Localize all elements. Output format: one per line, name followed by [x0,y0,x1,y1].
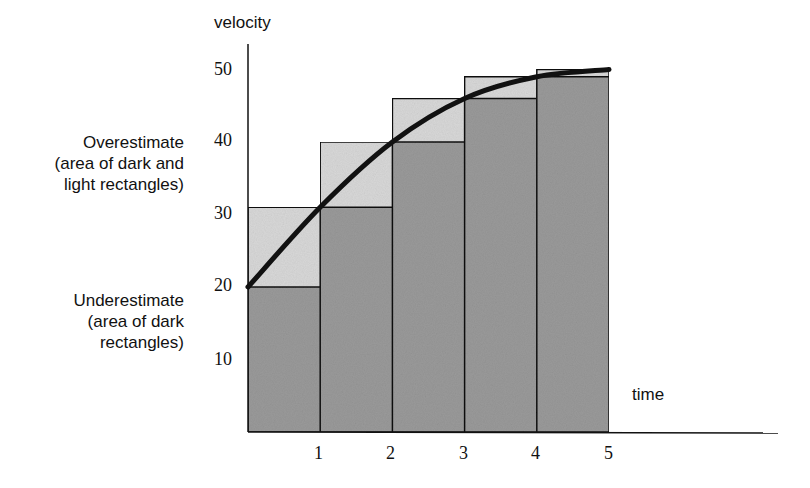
y-axis-label: velocity [214,12,271,33]
y-tick: 50 [214,59,232,80]
x-tick: 5 [604,443,613,464]
x-axis [248,432,778,433]
y-tick: 20 [214,275,232,296]
chart-plot [0,0,810,488]
annotation-line: Overestimate [55,132,184,153]
annotation-line: (area of dark and [55,153,184,174]
overestimate-annotation: Overestimate (area of dark and light rec… [55,132,184,195]
dark-rectangle [320,207,392,432]
x-tick: 2 [386,443,395,464]
dark-rectangle [248,287,320,432]
rectangles [248,70,609,433]
underestimate-annotation: Underestimate (area of dark rectangles) [73,290,184,353]
x-axis-label: time [632,384,664,405]
annotation-line: Underestimate [73,290,184,311]
dark-rectangle [392,142,464,432]
y-tick: 30 [214,203,232,224]
dark-rectangle [465,99,537,433]
x-tick: 3 [459,443,468,464]
y-tick: 10 [214,349,232,370]
annotation-line: light rectangles) [55,174,184,195]
x-tick: 1 [314,443,323,464]
dark-rectangle [537,77,609,432]
x-tick: 4 [531,443,540,464]
annotation-line: (area of dark [73,311,184,332]
annotation-line: rectangles) [73,332,184,353]
y-tick: 40 [214,130,232,151]
